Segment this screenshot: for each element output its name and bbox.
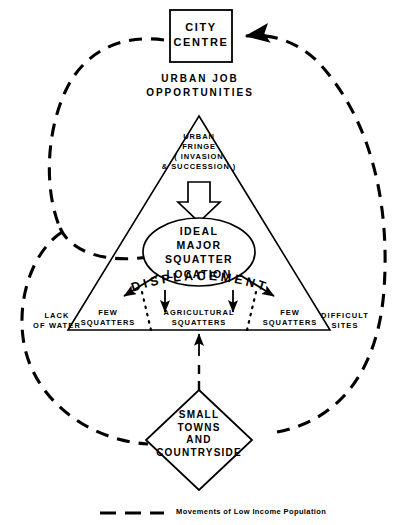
urban-fringe-label: URBAN FRINGE ( INVASION & SUCCESSION ) <box>139 132 259 173</box>
city-centre-label: CITY CENTRE <box>170 20 232 50</box>
zone-label-right-few-squatters: FEW SQUATTERS <box>255 308 325 328</box>
legend-label: Movements of Low Income Population <box>176 507 386 517</box>
fringe-block-arrow-icon <box>178 182 220 222</box>
movement-curve-lower-left <box>22 232 148 444</box>
small-towns-countryside-label: SMALL TOWNS AND COUNTRYSIDE <box>139 409 259 459</box>
zone-label-agricultural-squatters: AGRICULTURAL SQUATTERS <box>149 308 249 328</box>
diagram-canvas: DISPLACEMENT CITY CENTRE URBAN JOB OPPOR… <box>0 0 399 525</box>
urban-job-opportunities-label: URBAN JOB OPPORTUNITIES <box>120 72 280 99</box>
zone-label-left-few-squatters: FEW SQUATTERS <box>73 308 143 328</box>
ideal-major-squatter-location-label: IDEAL MAJOR SQUATTER LOCATION <box>144 224 254 281</box>
